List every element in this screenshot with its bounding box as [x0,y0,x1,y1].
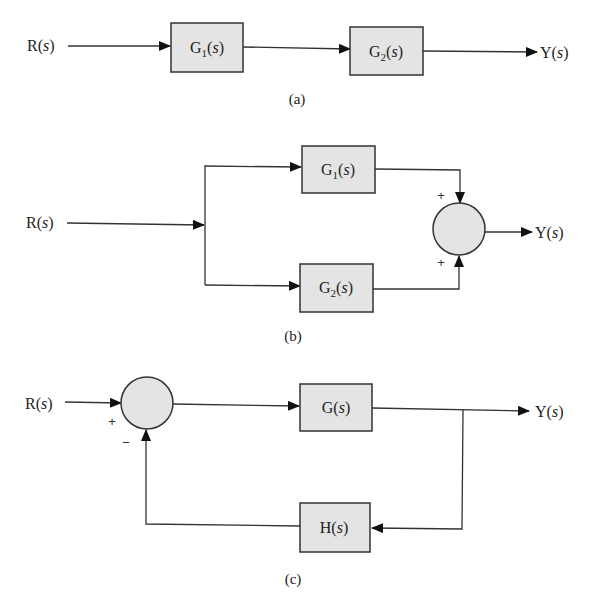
block-g2: G2(s) [300,264,373,312]
sign-minus: − [122,435,130,450]
summing-junction [433,203,485,255]
feedback-line [372,410,463,529]
input-label-r: R(s) [26,214,54,232]
sign-plus: + [108,414,116,429]
signal-line [205,166,301,167]
block-diagram-figure: R(s) G1(s) G2(s) Y(s) (a) R(s) G1(s) G2(… [0,0,599,610]
block-g2: G2(s) [350,27,423,75]
block-label: H(s) [320,519,348,537]
block-g: G(s) [300,384,372,431]
panel-c-feedback: R(s) + − G(s) Y(s) H(s) (c) [25,377,563,588]
output-label-y: Y(s) [535,224,563,242]
signal-line [67,223,204,225]
input-label-r: R(s) [27,37,55,55]
caption-b: (b) [284,328,302,345]
sign-plus-bottom: + [437,255,445,270]
block-h: H(s) [300,503,370,552]
caption-c: (c) [285,571,302,588]
block-g1: G1(s) [302,146,375,193]
input-label-r: R(s) [25,395,53,413]
signal-line [372,408,529,411]
signal-line [65,402,121,403]
signal-line [375,169,460,203]
panel-a-series: R(s) G1(s) G2(s) Y(s) (a) [27,23,568,108]
signal-line [243,47,350,49]
output-label-y: Y(s) [535,403,563,421]
signal-line [423,51,537,52]
feedback-line [146,430,300,526]
block-label: G(s) [322,399,350,417]
caption-a: (a) [289,91,306,108]
signal-line [173,404,299,406]
signal-line [373,256,459,289]
summing-junction [121,377,173,429]
signal-line [205,285,300,286]
panel-b-parallel: R(s) G1(s) G2(s) + + Y(s) (b) [26,146,563,345]
output-label-y: Y(s) [540,44,568,62]
block-g1: G1(s) [171,23,243,72]
sign-plus-top: + [437,188,445,203]
